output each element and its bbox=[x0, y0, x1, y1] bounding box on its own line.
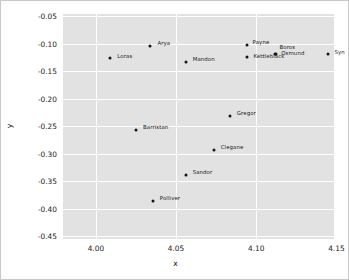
x-tick-label: 4.10 bbox=[248, 244, 264, 253]
data-point bbox=[184, 173, 187, 176]
y-tick-label: -0.40 bbox=[38, 204, 57, 213]
data-point bbox=[246, 56, 249, 59]
y-tick-label: -0.45 bbox=[38, 231, 57, 240]
data-point-label: Kettleblack bbox=[253, 54, 284, 59]
data-point-label: Osmund bbox=[281, 51, 304, 56]
data-point bbox=[275, 53, 278, 56]
data-point bbox=[228, 114, 231, 117]
data-point bbox=[327, 53, 330, 56]
gridline-horizontal-5 bbox=[63, 154, 334, 155]
gridline-horizontal-0 bbox=[63, 16, 334, 17]
y-axis-title: y bbox=[5, 124, 14, 129]
data-point bbox=[184, 61, 187, 64]
data-point-label: Arya bbox=[157, 41, 170, 46]
scatter-plot-figure: LorasAryaMandonPayneKettleblackBorosOsmu… bbox=[0, 0, 349, 280]
y-tick-label: -0.20 bbox=[38, 94, 57, 103]
gridline-horizontal-3 bbox=[63, 99, 334, 100]
x-tick-label: 4.00 bbox=[88, 244, 104, 253]
data-point-label: Polliver bbox=[160, 196, 180, 201]
gridline-horizontal-8 bbox=[63, 236, 334, 237]
gridline-horizontal-7 bbox=[63, 209, 334, 210]
data-point-label: Mandon bbox=[193, 57, 215, 62]
data-point-label: Syn bbox=[334, 50, 344, 55]
data-point bbox=[245, 44, 248, 47]
gridline-horizontal-4 bbox=[63, 126, 334, 127]
data-point-label: Loras bbox=[117, 54, 132, 59]
y-tick-label: -0.35 bbox=[38, 177, 57, 186]
y-axis-tick-labels: -0.05-0.10-0.15-0.20-0.25-0.30-0.35-0.40… bbox=[1, 1, 57, 280]
gridline-vertical-3 bbox=[336, 14, 337, 239]
y-tick-label: -0.30 bbox=[38, 149, 57, 158]
gridline-horizontal-2 bbox=[63, 71, 334, 72]
data-point bbox=[149, 44, 152, 47]
y-tick-label: -0.10 bbox=[38, 39, 57, 48]
x-axis-tick-labels: 4.004.054.104.15 bbox=[1, 244, 349, 258]
data-point bbox=[134, 129, 137, 132]
x-tick-label: 4.15 bbox=[328, 244, 344, 253]
x-tick-label: 4.05 bbox=[168, 244, 184, 253]
data-point-label: Barristan bbox=[143, 125, 168, 130]
y-tick-label: -0.15 bbox=[38, 67, 57, 76]
plot-panel: LorasAryaMandonPayneKettleblackBorosOsmu… bbox=[63, 14, 334, 239]
data-point-label: Payne bbox=[253, 40, 270, 45]
data-point bbox=[212, 149, 215, 152]
y-tick-label: -0.25 bbox=[38, 122, 57, 131]
y-tick-label: -0.05 bbox=[38, 12, 57, 21]
data-point bbox=[109, 56, 112, 59]
data-point-label: Sandor bbox=[193, 170, 213, 175]
gridline-horizontal-6 bbox=[63, 181, 334, 182]
x-axis-title: x bbox=[1, 259, 349, 268]
data-point-label: Clegane bbox=[221, 145, 244, 150]
data-point-label: Gregor bbox=[237, 111, 256, 116]
data-point bbox=[151, 199, 154, 202]
